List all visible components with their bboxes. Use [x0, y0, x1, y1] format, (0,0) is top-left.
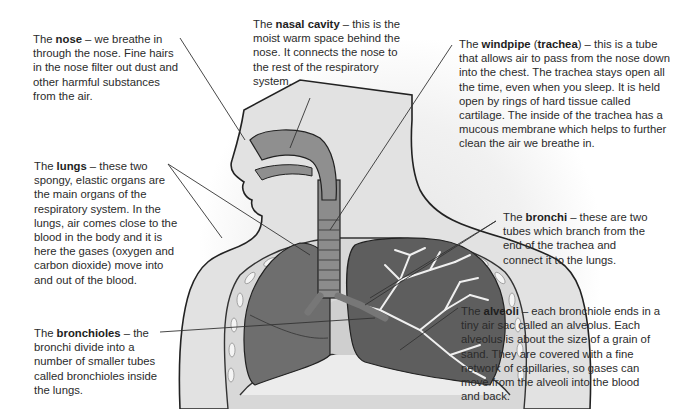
- term-nose: nose: [56, 33, 82, 45]
- label-alveoli: The alveoli – each bronchiole ends in a …: [461, 304, 661, 403]
- term-bronchi: bronchi: [526, 211, 567, 223]
- label-windpipe: The windpipe (trachea) – this is a tube …: [459, 37, 674, 151]
- term-bronchioles: bronchioles: [57, 327, 121, 339]
- term-alveoli: alveoli: [484, 305, 519, 317]
- label-bronchioles: The bronchioles – the bronchi divide int…: [34, 326, 169, 397]
- term-windpipe: windpipe: [482, 38, 531, 50]
- label-bronchi: The bronchi – these are two tubes which …: [503, 210, 658, 267]
- term-nasal-cavity: nasal cavity: [276, 18, 340, 30]
- term-trachea: trachea: [537, 38, 577, 50]
- label-lungs: The lungs – these two spongy, elastic or…: [34, 159, 179, 287]
- term-lungs: lungs: [57, 160, 87, 172]
- label-nose: The nose – we breathe in through the nos…: [33, 32, 183, 103]
- label-nasal-cavity: The nasal cavity – this is the moist war…: [253, 17, 403, 88]
